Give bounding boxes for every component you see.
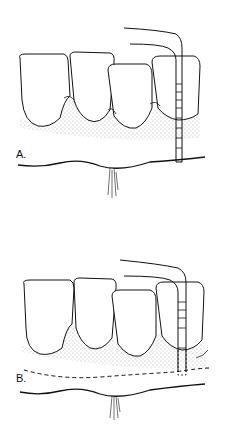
panel-label-b: B.: [16, 372, 26, 384]
root-hairs-a: [108, 168, 118, 198]
bone-crest-dashed-b: [24, 368, 210, 378]
tooth-2-b: [74, 278, 116, 349]
panel-a: [18, 28, 205, 198]
bone-line-b: [20, 384, 205, 396]
bone-line-a: [18, 157, 205, 168]
root-hairs-b: [110, 396, 120, 420]
panel-label-a: A.: [16, 148, 26, 160]
dental-diagram: [0, 0, 225, 438]
panel-b: [20, 260, 210, 420]
